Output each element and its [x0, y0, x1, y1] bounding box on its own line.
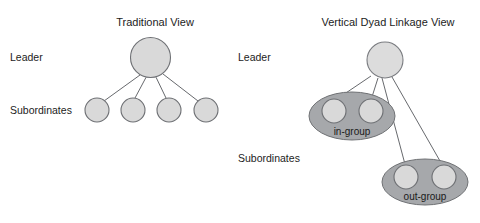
in-group: in-group [309, 92, 395, 140]
left-panel-title: Traditional View [116, 16, 194, 28]
right-panel-title: Vertical Dyad Linkage View [321, 16, 454, 28]
left-link-1 [104, 75, 140, 101]
out-group: out-group [382, 159, 468, 205]
in-group-member-2 [359, 99, 383, 123]
diagram-canvas: Traditional View Leader Subordinates Ver… [0, 0, 480, 223]
left-link-4 [163, 74, 198, 101]
left-subordinate-node-3 [157, 98, 181, 122]
right-leader-node [367, 42, 403, 78]
in-group-member-1 [322, 99, 346, 123]
left-subordinates-label: Subordinates [10, 104, 72, 116]
right-leader-label: Leader [238, 51, 271, 63]
out-group-member-2 [432, 165, 456, 189]
left-link-2 [135, 77, 146, 98]
left-leader-label: Leader [10, 51, 43, 63]
right-link-out-2 [392, 77, 444, 168]
left-link-group [104, 74, 198, 101]
out-group-member-1 [394, 165, 418, 189]
right-panel: Vertical Dyad Linkage View Leader Subord… [238, 16, 468, 205]
left-subordinate-node-4 [194, 98, 218, 122]
left-subordinate-node-1 [85, 98, 109, 122]
left-leader-node [131, 38, 171, 78]
in-group-label: in-group [334, 126, 371, 137]
left-panel: Traditional View Leader Subordinates [10, 16, 218, 122]
right-subordinates-label: Subordinates [238, 152, 300, 164]
out-group-label: out-group [404, 191, 447, 202]
left-subordinate-node-2 [121, 98, 145, 122]
left-link-3 [156, 77, 166, 98]
leadership-comparison-diagram: Traditional View Leader Subordinates Ver… [0, 0, 480, 223]
